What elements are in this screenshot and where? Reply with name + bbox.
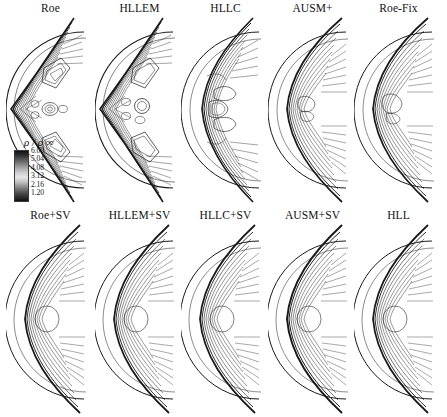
panel-label: AUSM+SV (268, 209, 357, 222)
colorbar-legend: ρ / ρ ∞ 6.00 5.04 4.08 3.12 2.16 1.20 (14, 136, 92, 202)
panel-label: Roe (6, 2, 95, 15)
contour-plot-hllem-sv (95, 223, 184, 415)
panel-roe-fix: Roe-Fix (354, 0, 443, 207)
panel-ausm-plus: AUSM+ (268, 0, 357, 207)
contour-plot-roe-fix (354, 16, 443, 205)
contour-plot-hllc (181, 16, 270, 205)
colorbar-tick-list: 6.00 5.04 4.08 3.12 2.16 1.20 (31, 147, 71, 197)
panel-hllem: HLLEM (95, 0, 184, 207)
panel-label: Roe-Fix (354, 2, 443, 15)
panel-label: HLL (354, 209, 443, 222)
panel-hllc-sv: HLLC+SV (181, 207, 270, 417)
colorbar-gradient (14, 150, 29, 202)
panel-label: Roe+SV (6, 209, 95, 222)
contour-plot-ausm-plus (268, 16, 357, 205)
panel-hllc: HLLC (181, 0, 270, 207)
panel-ausm-sv: AUSM+SV (268, 207, 357, 417)
contour-plot-hllem (95, 16, 184, 205)
panel-label: HLLEM (95, 2, 184, 15)
contour-figure: Roe (0, 0, 447, 417)
contour-plot-hll (354, 223, 443, 415)
panel-hllem-sv: HLLEM+SV (95, 207, 184, 417)
contour-plot-roe-sv (6, 223, 95, 415)
panel-label: HLLEM+SV (95, 209, 184, 222)
colorbar-tick: 1.20 (31, 189, 71, 197)
panel-label: AUSM+ (268, 2, 357, 15)
panel-row-bottom: Roe+SV (0, 207, 447, 417)
panel-roe-sv: Roe+SV (6, 207, 95, 417)
panel-hll: HLL (354, 207, 443, 417)
panel-label: HLLC (181, 2, 270, 15)
contour-plot-ausm-sv (268, 223, 357, 415)
contour-plot-hllc-sv (181, 223, 270, 415)
panel-label: HLLC+SV (181, 209, 270, 222)
